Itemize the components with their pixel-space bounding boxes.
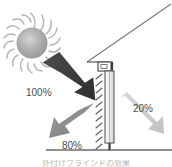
blind-headbox-inner <box>101 65 107 69</box>
transmitted-percent-label: 20% <box>133 104 153 114</box>
solar-blind-diagram: 100% 80% 20% 外付けブラインドの効果 <box>0 0 172 167</box>
diagram-canvas <box>0 0 172 167</box>
reflected-radiation-arrow <box>49 103 94 138</box>
eave-line <box>87 4 171 62</box>
incoming-radiation-arrow <box>41 48 96 107</box>
sun-core <box>17 28 48 59</box>
blind-headbox-end <box>111 62 114 71</box>
blind-assembly <box>96 62 114 150</box>
blind-louver-slats <box>96 74 102 149</box>
reflected-percent-label: 80% <box>62 141 82 151</box>
figure-caption: 外付けブラインドの効果 <box>0 160 172 167</box>
incoming-percent-label: 100% <box>26 88 52 98</box>
